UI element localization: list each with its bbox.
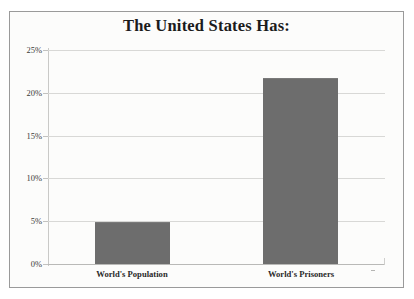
- y-tick-mark: [43, 93, 48, 94]
- bar-2: [263, 78, 338, 264]
- y-tick-mark: [43, 264, 48, 265]
- y-axis-tick-labels: 0%5%10%15%20%25%: [2, 0, 42, 299]
- y-tick-mark: [43, 50, 48, 51]
- y-axis-tick-label: 20%: [8, 88, 42, 98]
- y-tick-mark: [43, 221, 48, 222]
- y-tick-mark: [43, 178, 48, 179]
- x-axis-category-label: World's Prisoners: [221, 269, 381, 279]
- baseline-right-cap: [384, 258, 385, 265]
- y-axis-tick-label: 25%: [8, 45, 42, 55]
- bar-1: [95, 222, 170, 264]
- chart-title: The United States Has:: [9, 16, 404, 36]
- y-axis-tick-label: 10%: [8, 173, 42, 183]
- y-axis-tick-label: 0%: [8, 259, 42, 269]
- x-axis-category-label: World's Population: [52, 269, 212, 279]
- y-axis-tick-label: 15%: [8, 131, 42, 141]
- y-axis-tick-label: 5%: [8, 216, 42, 226]
- bar-chart-figure: The United States Has: 0%5%10%15%20%25% …: [0, 0, 414, 299]
- gridline-25pct: [48, 50, 385, 51]
- gridline-0pct: [48, 264, 385, 265]
- y-tick-mark: [43, 136, 48, 137]
